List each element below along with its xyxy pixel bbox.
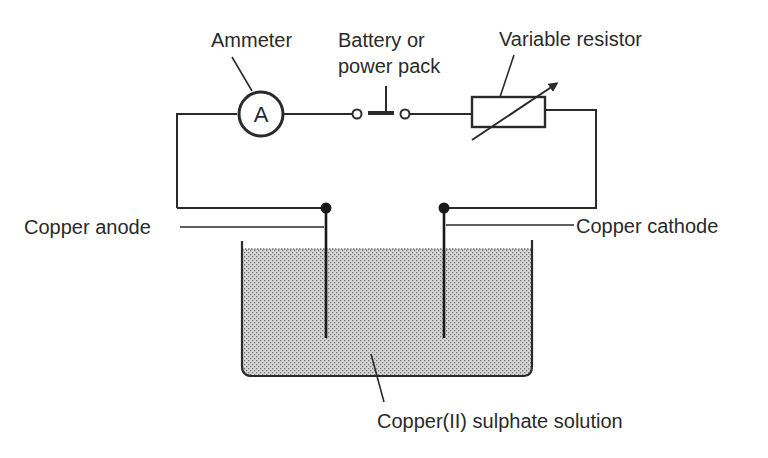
battery (353, 86, 410, 119)
resistor-leader (500, 55, 514, 97)
solution-label: Copper(II) sulphate solution (377, 410, 623, 432)
battery-label-line1: Battery or (338, 29, 425, 51)
ammeter-leader (232, 57, 252, 91)
beaker (242, 240, 532, 376)
copper-cathode-label: Copper cathode (576, 215, 718, 237)
electrolysis-diagram: A Ammeter Battery or power pack Variable… (0, 0, 768, 458)
variable-resistor-label: Variable resistor (499, 28, 642, 50)
copper-anode-label: Copper anode (24, 216, 151, 238)
battery-label-line2: power pack (338, 55, 441, 77)
ammeter-label: Ammeter (211, 29, 292, 51)
variable-resistor (472, 84, 556, 140)
ammeter-symbol: A (254, 102, 269, 127)
ammeter: A (239, 92, 283, 136)
